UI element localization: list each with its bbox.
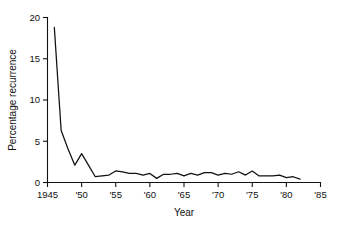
y-tick-label: 10 [29,94,40,105]
x-axis-title: Year [174,207,195,218]
y-tick-label: 5 [35,136,40,147]
x-tick-label: '60 [144,189,156,200]
x-tick-label: '55 [110,189,122,200]
x-tick-label: 1945 [37,189,58,200]
y-axis-title: Percentage recurrence [7,49,18,151]
x-tick-label: '75 [246,189,258,200]
y-tick-label: 0 [35,177,40,188]
chart-figure: 051015201945'50'55'60'65'70'75'80'85Year… [0,0,339,227]
x-tick-label: '65 [178,189,190,200]
x-tick-label: '50 [75,189,87,200]
axes-group: 051015201945'50'55'60'65'70'75'80'85Year… [7,12,327,218]
y-tick-label: 20 [29,12,40,23]
y-tick-label: 15 [29,53,40,64]
data-series-line [54,27,300,179]
line-chart: 051015201945'50'55'60'65'70'75'80'85Year… [0,0,339,227]
x-tick-label: '80 [280,189,292,200]
x-tick-label: '70 [212,189,224,200]
x-tick-label: '85 [314,189,326,200]
